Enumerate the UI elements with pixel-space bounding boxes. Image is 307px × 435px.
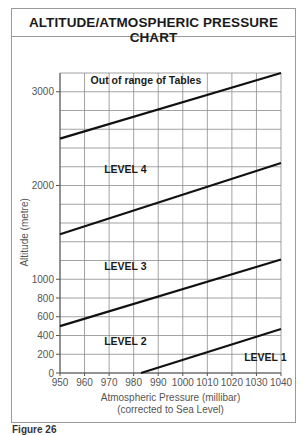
y-tick-label: 200 <box>37 349 54 360</box>
x-tick-label: 980 <box>125 377 142 388</box>
y-tick-label: 600 <box>37 311 54 322</box>
x-tick-label: 950 <box>52 377 69 388</box>
y-tick-label: 400 <box>37 330 54 341</box>
x-tick-label: 1000 <box>172 377 195 388</box>
y-tick-label: 800 <box>37 293 54 304</box>
region-label: LEVEL 1 <box>244 351 287 363</box>
region-label: LEVEL 4 <box>104 163 147 175</box>
y-tick-label: 0 <box>48 368 54 379</box>
region-label: LEVEL 3 <box>104 260 147 272</box>
y-tick-label: 2000 <box>32 180 55 191</box>
x-tick-label: 990 <box>150 377 167 388</box>
boundary-line <box>60 163 281 234</box>
x-tick-label: 1040 <box>270 377 293 388</box>
y-axis-label: Altitude (metre) <box>19 198 30 266</box>
y-tick-label: 1000 <box>32 274 55 285</box>
y-tick-label: 3000 <box>32 86 55 97</box>
figure-label: Figure 26 <box>12 424 56 435</box>
x-tick-label: 1030 <box>245 377 268 388</box>
x-tick-label: 970 <box>101 377 118 388</box>
region-label: LEVEL 2 <box>104 335 147 347</box>
x-tick-label: 1010 <box>196 377 219 388</box>
x-tick-label: 960 <box>76 377 93 388</box>
region-label: Out of range of Tables <box>91 74 202 86</box>
x-axis-sublabel: (corrected to Sea Level) <box>117 404 224 415</box>
x-axis-label: Atmospheric Pressure (millibar) <box>101 392 240 403</box>
boundary-line <box>60 260 281 327</box>
x-tick-label: 1020 <box>221 377 244 388</box>
